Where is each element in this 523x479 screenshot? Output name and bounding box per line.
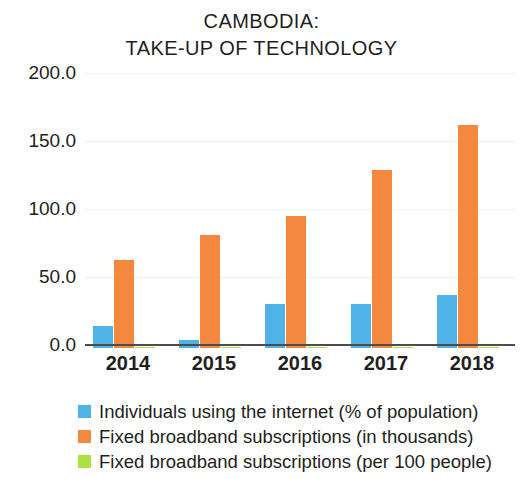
legend-swatch-icon bbox=[78, 405, 91, 418]
bar bbox=[265, 304, 285, 348]
legend-item-label: Fixed broadband subscriptions (per 100 p… bbox=[99, 452, 492, 471]
bar bbox=[479, 347, 499, 348]
bar bbox=[114, 260, 134, 348]
x-axis-tick-label: 2018 bbox=[429, 352, 515, 375]
x-axis-tick-label: 2017 bbox=[343, 352, 429, 375]
bar bbox=[135, 347, 155, 348]
legend-item[interactable]: Fixed broadband subscriptions (in thousa… bbox=[78, 424, 518, 448]
legend-swatch-icon bbox=[78, 455, 91, 468]
chart-title: CAMBODIA: TAKE-UP OF TECHNOLOGY bbox=[0, 8, 523, 62]
bar-group bbox=[171, 73, 257, 348]
bar bbox=[372, 170, 392, 348]
bar bbox=[393, 347, 413, 348]
y-axis-tick-label: 150.0 bbox=[0, 130, 76, 152]
x-axis-tick-label: 2016 bbox=[257, 352, 343, 375]
x-axis-tick-label: 2014 bbox=[85, 352, 171, 375]
x-axis-line bbox=[85, 344, 515, 346]
bar bbox=[286, 216, 306, 348]
y-axis-tick-label: 100.0 bbox=[0, 198, 76, 220]
y-axis-tick-label: 50.0 bbox=[0, 266, 76, 288]
chart-legend: Individuals using the internet (% of pop… bbox=[78, 399, 518, 474]
bar-group bbox=[85, 73, 171, 348]
bar bbox=[351, 304, 371, 348]
bar bbox=[437, 295, 457, 348]
y-axis-tick-label: 0.0 bbox=[0, 334, 76, 356]
chart-title-line-2: TAKE-UP OF TECHNOLOGY bbox=[0, 35, 523, 62]
legend-swatch-icon bbox=[78, 430, 91, 443]
x-axis-tick-label: 2015 bbox=[171, 352, 257, 375]
bar-group bbox=[257, 73, 343, 348]
chart-title-line-1: CAMBODIA: bbox=[0, 8, 523, 35]
bar bbox=[458, 125, 478, 348]
y-axis-tick-label: 200.0 bbox=[0, 62, 76, 84]
bar-group bbox=[429, 73, 515, 348]
legend-item-label: Individuals using the internet (% of pop… bbox=[99, 402, 479, 421]
chart-figure: CAMBODIA: TAKE-UP OF TECHNOLOGY 200.0150… bbox=[0, 0, 523, 479]
bar bbox=[221, 347, 241, 348]
legend-item-label: Fixed broadband subscriptions (in thousa… bbox=[99, 427, 473, 446]
legend-item[interactable]: Individuals using the internet (% of pop… bbox=[78, 399, 518, 423]
legend-item[interactable]: Fixed broadband subscriptions (per 100 p… bbox=[78, 449, 518, 473]
plot-area bbox=[85, 70, 515, 348]
bar bbox=[307, 347, 327, 348]
bar bbox=[200, 235, 220, 348]
bar-group bbox=[343, 73, 429, 348]
